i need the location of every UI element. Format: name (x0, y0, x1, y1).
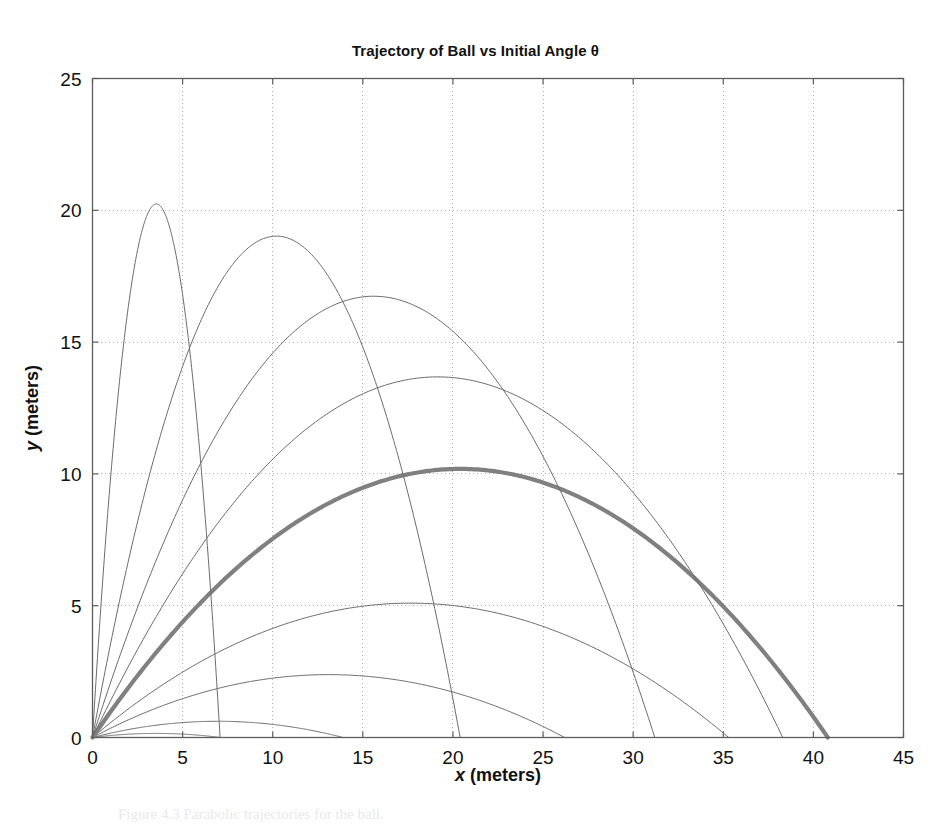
y-tick-label: 5 (71, 596, 82, 617)
trajectory-plot: 051015202530354045 0510152025 x (meters)… (0, 0, 951, 831)
x-tick-label: 40 (803, 747, 824, 768)
x-tick-label: 15 (352, 747, 373, 768)
trajectory-curve (93, 296, 655, 737)
x-tick-label: 45 (893, 747, 914, 768)
x-tick-label: 5 (177, 747, 188, 768)
y-tick-label: 15 (60, 332, 81, 353)
y-axis-tick-labels: 0510152025 (60, 69, 81, 749)
figure-root: Trajectory of Ball vs Initial Angle θ 05… (0, 0, 951, 831)
trajectory-curve (93, 204, 221, 738)
y-tick-label: 20 (60, 200, 81, 221)
x-tick-label: 30 (623, 747, 644, 768)
figure-caption: Figure 4.3 Parabolic trajectories for th… (118, 806, 818, 823)
y-tick-label: 0 (71, 728, 82, 749)
y-tick-label: 10 (60, 464, 81, 485)
trajectory-curves-group (93, 204, 828, 738)
trajectory-curve (93, 721, 344, 737)
x-axis-title: x (meters) (454, 765, 541, 785)
x-tick-label: 0 (87, 747, 98, 768)
y-tick-label: 25 (60, 69, 81, 90)
trajectory-curve-emphasized (93, 469, 828, 738)
x-tick-label: 10 (262, 747, 283, 768)
y-axis-title: y (meters) (22, 365, 42, 452)
x-tick-label: 35 (713, 747, 734, 768)
trajectory-curve (93, 377, 783, 738)
